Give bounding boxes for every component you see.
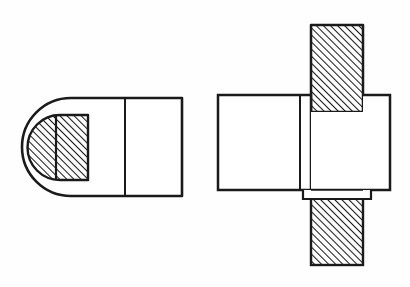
lower-hatched-shaft-fill <box>311 198 363 265</box>
drawing-sheet <box>0 0 410 287</box>
upper-shaft-group <box>311 25 363 112</box>
bottom-step-shelf-fill <box>303 190 371 199</box>
left-view <box>22 98 182 196</box>
lower-shaft-group <box>311 198 363 265</box>
technical-drawing-canvas <box>0 0 410 287</box>
left-hatched-boss <box>28 115 89 180</box>
shelf-group <box>303 190 371 199</box>
body-left-segment <box>218 95 311 190</box>
upper-hatched-shaft-fill <box>311 25 363 112</box>
